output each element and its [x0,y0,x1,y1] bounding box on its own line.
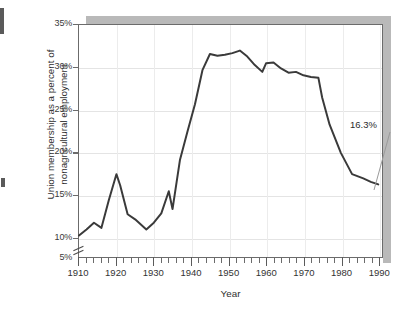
y-axis-tick [73,238,78,239]
x-axis-minor-tick [372,257,373,263]
x-axis-tick-label: 1940 [180,267,201,278]
y-axis-title: Union membership as a percent of nonagri… [22,20,56,235]
page-edge-artifact-mid [1,178,5,187]
x-axis-minor-tick [259,257,260,263]
x-axis-minor-tick [281,257,282,263]
x-axis-tick-label: 1950 [218,267,239,278]
x-axis-minor-tick [244,257,245,263]
y-axis-tick [73,67,78,68]
x-axis-tick-label: 1930 [143,267,164,278]
y-axis-tick-label: 15% [36,189,72,199]
y-axis-title-line-2: nonagricultural employment [57,64,68,184]
x-axis-minor-tick [146,257,147,263]
x-axis-minor-tick [183,257,184,263]
y-axis-tick-label: 10% [36,232,72,242]
x-axis-major-tick [153,257,154,266]
x-axis-minor-tick [206,257,207,263]
x-axis-minor-tick [311,257,312,263]
y-axis-tick-label: 35% [36,18,72,28]
x-axis-minor-tick [327,257,328,263]
x-axis-minor-tick [138,257,139,263]
x-axis-minor-tick [236,257,237,263]
y-axis-tick-label: 30% [36,61,72,71]
y-axis-title-line-1: Union membership as a percent of [45,50,56,200]
annotation-leader-line [330,118,400,198]
x-axis-minor-tick [86,257,87,263]
x-axis-major-tick [78,257,79,266]
x-axis-minor-tick [101,257,102,263]
x-axis-major-tick [379,257,380,266]
x-axis-major-tick [304,257,305,266]
y-axis-break-icon [73,245,84,257]
y-axis-tick [73,152,78,153]
x-axis-minor-tick [176,257,177,263]
union-membership-chart-figure: Union membership as a percent of nonagri… [0,0,413,313]
x-axis-minor-tick [274,257,275,263]
x-axis-minor-tick [168,257,169,263]
x-axis-minor-tick [161,257,162,263]
annotation-value-label: 16.3% [350,119,377,130]
plot-shadow-top [86,16,391,24]
y-axis-tick-label: 25% [36,104,72,114]
x-axis-major-tick [191,257,192,266]
x-axis-minor-tick [93,257,94,263]
y-axis-tick [73,110,78,111]
x-axis-minor-tick [289,257,290,263]
x-axis-tick-label: 1960 [256,267,277,278]
x-axis-minor-tick [123,257,124,263]
x-axis-tick-label: 1990 [369,267,390,278]
x-axis-minor-tick [349,257,350,263]
x-axis-major-tick [116,257,117,266]
x-axis-minor-tick [296,257,297,263]
y-axis-tick-label: 20% [36,146,72,156]
y-axis-tick-label: 5% [36,252,72,262]
x-axis-minor-tick [364,257,365,263]
x-axis-major-tick [266,257,267,266]
x-axis-major-tick [342,257,343,266]
x-axis-minor-tick [214,257,215,263]
x-axis-minor-tick [251,257,252,263]
page-edge-artifact-top [0,8,4,34]
x-axis-tick-label: 1920 [105,267,126,278]
x-axis-minor-tick [108,257,109,263]
x-axis-minor-tick [198,257,199,263]
x-axis-tick-label: 1980 [331,267,352,278]
x-axis-tick-label: 1910 [67,267,88,278]
x-axis-tick-label: 1970 [293,267,314,278]
x-axis-minor-tick [319,257,320,263]
x-axis-minor-tick [357,257,358,263]
x-axis-minor-tick [334,257,335,263]
y-axis-tick [73,195,78,196]
x-axis-major-tick [229,257,230,266]
x-axis-title: Year [78,288,383,299]
y-axis-tick [73,24,78,25]
x-axis-minor-tick [131,257,132,263]
x-axis-minor-tick [221,257,222,263]
